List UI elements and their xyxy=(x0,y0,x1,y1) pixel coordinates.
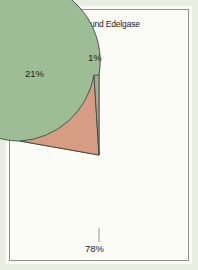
legend-item-oxygen: Sauerstoff xyxy=(13,31,183,43)
figure-container: Kohlenstoffdioxid und Edelgase Sauerstof… xyxy=(0,0,198,270)
legend-label-carbon-dioxide: Kohlenstoffdioxid und Edelgase xyxy=(26,19,140,29)
legend-label-oxygen: Sauerstoff xyxy=(26,32,63,42)
legend-swatch-oxygen xyxy=(13,33,21,41)
legend-item-nitrogen: Stickstoff xyxy=(13,44,183,56)
legend-swatch-nitrogen xyxy=(13,46,21,54)
legend-swatch-carbon-dioxide xyxy=(13,20,21,28)
legend-item-carbon-dioxide: Kohlenstoffdioxid und Edelgase xyxy=(13,18,183,30)
chart-legend: Kohlenstoffdioxid und Edelgase Sauerstof… xyxy=(13,18,183,57)
legend-label-nitrogen: Stickstoff xyxy=(26,45,59,55)
